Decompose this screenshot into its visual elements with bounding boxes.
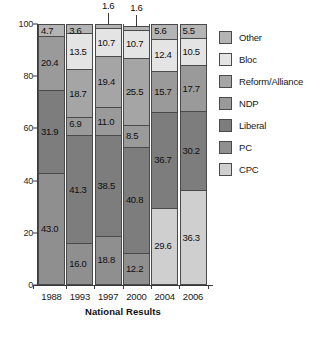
bar-segment-value-label: 12.2 [126,264,143,274]
bar-segment-callout-label: 1.6 [130,3,142,13]
bar-segment-value-label: 10.7 [126,39,143,49]
bar-segment-value-label: 10.5 [183,47,200,57]
bar-stack: 18.838.511.019.410.71.6 [95,24,122,285]
bar-segment: 8.5 [124,125,149,147]
bar-segment: 6.9 [67,117,92,135]
bar-segment-value-label: 40.8 [126,195,143,205]
bar-stack: 12.240.88.525.510.71.6 [123,24,150,285]
legend-item-label: Other [239,32,262,43]
legend-item[interactable]: CPC [219,158,303,180]
bar-segment-value-label: 10.7 [98,38,115,48]
legend-swatch-icon [219,163,232,176]
bar-segment-value-label: 25.5 [126,87,143,97]
plot-area: 43.031.920.44.716.041.36.918.713.53.618.… [38,24,208,285]
chart-legend: OtherBlocReform/AllianceNDPLiberalPCCPC [219,26,303,180]
bar-segment-value-label: 3.6 [69,26,81,36]
bar-segment-value-label: 17.7 [183,84,200,94]
legend-item[interactable]: Other [219,26,303,48]
bar-segment: 20.4 [39,36,64,89]
x-axis-tick-mark [66,285,67,289]
bar-segment-value-label: 18.8 [98,255,115,265]
legend-swatch-icon [219,31,232,44]
legend-item-label: Bloc [239,54,257,65]
bar-segment-value-label: 12.4 [154,50,171,60]
bar-segment-value-label: 38.5 [98,181,115,191]
x-axis-title: National Results [33,306,213,317]
bar-segment: 19.4 [96,56,121,107]
bar-segment: 29.6 [152,208,177,285]
bar-segment: 1.6 [124,26,149,30]
legend-item[interactable]: NDP [219,92,303,114]
bar-segment: 15.7 [152,71,177,112]
bar-segment: 4.7 [39,24,64,36]
bar-segment: 3.6 [67,24,92,33]
bar-stack: 29.636.715.712.45.6 [151,24,178,285]
stacked-bar-chart: 020406080100 43.031.920.44.716.041.36.91… [0,0,323,337]
legend-item[interactable]: Bloc [219,48,303,70]
legend-item-label: Liberal [239,120,266,131]
bar-segment-value-label: 20.4 [41,58,58,68]
bar-segment: 25.5 [124,58,149,125]
bar-segment-value-label: 16.0 [69,259,86,269]
bar-segment: 10.5 [181,38,206,65]
bar-stack: 36.330.217.710.55.5 [180,24,207,285]
x-axis-tick-label: 2006 [176,291,211,302]
legend-swatch-icon [219,75,232,88]
legend-item-label: Reform/Alliance [239,76,303,87]
bar-segment-value-label: 30.2 [183,146,200,156]
callout-leader-line [136,15,137,27]
bar-segment: 41.3 [67,135,92,243]
bar-segment-value-label: 11.0 [98,117,115,127]
bar-segment-value-label: 6.9 [69,119,81,129]
x-axis-tick-mark [94,285,95,289]
bar-segment: 1.6 [96,24,121,28]
bar-segment-value-label: 5.5 [183,26,195,36]
bar-segment: 17.7 [181,65,206,111]
legend-item[interactable]: Reform/Alliance [219,70,303,92]
bar-segment: 30.2 [181,111,206,190]
bar-segment: 36.3 [181,190,206,285]
bar-segment: 11.0 [96,107,121,136]
bar-segment-value-label: 15.7 [154,87,171,97]
bar-segment-value-label: 4.7 [41,26,53,36]
bar-segment-value-label: 31.9 [41,127,58,137]
bar-stack: 16.041.36.918.713.53.6 [66,24,93,285]
legend-swatch-icon [219,53,232,66]
x-axis-tick-mark [179,285,180,289]
bar-segment: 5.5 [181,24,206,38]
bar-segment: 18.8 [96,236,121,285]
bar-segment: 12.2 [124,253,149,285]
legend-item-label: PC [239,142,252,153]
bar-segment-value-label: 43.0 [41,224,58,234]
bar-segment: 13.5 [67,33,92,68]
x-axis-tick-mark [208,285,209,289]
bar-segment-value-label: 29.6 [154,241,171,251]
bar-stack: 43.031.920.44.7 [38,24,65,285]
x-axis-tick-mark [123,285,124,289]
bar-segment-value-label: 5.6 [154,26,166,36]
legend-item[interactable]: Liberal [219,114,303,136]
bar-segment-value-label: 19.4 [98,77,115,87]
bar-segment: 40.8 [124,147,149,253]
bar-segment-value-label: 41.3 [69,185,86,195]
legend-swatch-icon [219,141,232,154]
bar-segment-value-label: 18.7 [69,89,86,99]
bar-segment: 5.6 [152,24,177,39]
legend-item-label: NDP [239,98,258,109]
bar-segment: 43.0 [39,173,64,285]
bar-segment-value-label: 36.7 [154,155,171,165]
legend-swatch-icon [219,97,232,110]
bar-segment-callout-label: 1.6 [102,1,114,11]
x-axis-tick-mark [151,285,152,289]
bar-segment-value-label: 13.5 [69,47,86,57]
bar-segment: 12.4 [152,39,177,71]
bar-segment: 10.7 [124,30,149,58]
legend-item-label: CPC [239,164,258,175]
legend-item[interactable]: PC [219,136,303,158]
bar-segment-value-label: 8.5 [126,131,138,141]
callout-leader-line [108,13,109,25]
bar-segment: 31.9 [39,90,64,173]
x-axis-tick-mark [33,285,34,289]
bar-segment: 36.7 [152,112,177,208]
bar-segment: 38.5 [96,135,121,235]
